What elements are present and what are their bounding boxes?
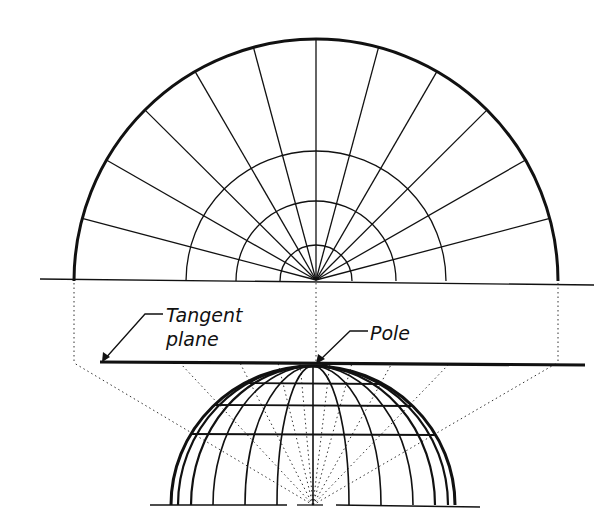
parallel-line-2 [191,434,435,435]
meridian-6 [253,47,316,280]
stereographic-projection-diagram: Tangent plane Pole [0,0,609,523]
meridian-0 [316,218,550,280]
tangent-plane-line [100,362,585,365]
meridian-1 [316,160,526,280]
upper-projection [40,39,594,285]
pole-label: Pole [370,322,410,344]
meridian-7 [195,71,316,280]
tangent-plane-callout: Tangent plane [102,304,244,362]
tangent-label-line1: Tangent [166,304,244,326]
tangent-plane-leader [104,314,163,360]
parallel-line-0 [245,383,381,384]
pole-callout: Pole [316,322,410,364]
meridian-8 [145,110,316,280]
globe-base-right [336,505,480,507]
projector-lines [74,283,558,505]
pole-leader [318,331,368,362]
tangent-plane [100,362,585,365]
parallel-line-1 [214,405,411,406]
meridian-10 [82,218,316,280]
meridian-9 [106,160,316,280]
meridian-3 [316,71,437,280]
meridian-4 [316,47,379,280]
tangent-label-line2: plane [165,328,219,350]
meridian-2 [316,110,487,280]
